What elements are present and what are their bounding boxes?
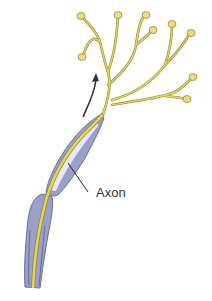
direction-arrow [83,73,99,117]
axon-label: Axon [96,185,126,200]
axon-illustration [0,0,212,301]
axon-terminal-branches [82,15,192,114]
axon-diagram: Axon [0,0,212,301]
